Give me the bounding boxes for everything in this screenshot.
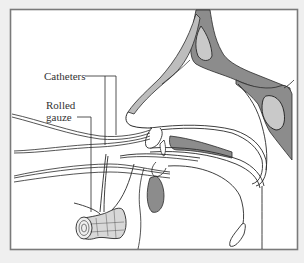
nasal-packing-diagram xyxy=(0,0,304,263)
rolled-gauze-label-line2: gauze xyxy=(46,111,72,123)
catheters-label: Catheters xyxy=(44,70,86,82)
rolled-gauze-label-line1: Rolled xyxy=(46,99,75,111)
